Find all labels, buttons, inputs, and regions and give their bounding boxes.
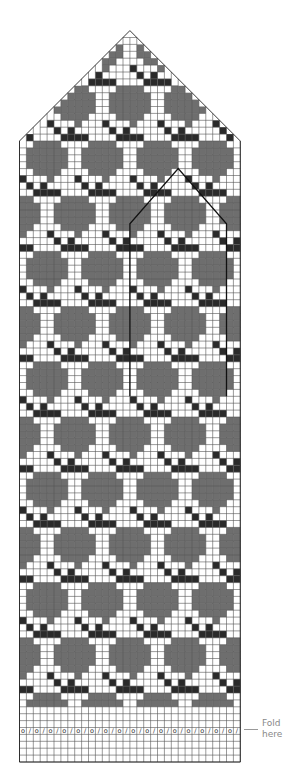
svg-text:/: /	[153, 727, 156, 735]
svg-text:/: /	[56, 727, 59, 735]
svg-text:o: o	[35, 727, 39, 735]
svg-text:/: /	[208, 727, 211, 735]
svg-text:o: o	[200, 727, 204, 735]
svg-text:/: /	[236, 727, 239, 735]
svg-text:/: /	[98, 727, 101, 735]
fold-label-line1: Fold	[262, 718, 282, 729]
svg-text:o: o	[131, 727, 135, 735]
svg-text:/: /	[43, 727, 46, 735]
svg-text:/: /	[181, 727, 184, 735]
svg-text:o: o	[49, 727, 53, 735]
knitting-chart: o/o/o/o/o/o/o/o/o/o/o/o/o/o/o/o/	[0, 0, 288, 781]
fold-pointer-line	[244, 729, 258, 730]
svg-text:o: o	[145, 727, 149, 735]
svg-text:o: o	[118, 727, 122, 735]
svg-text:/: /	[222, 727, 225, 735]
svg-text:/: /	[29, 727, 32, 735]
svg-text:o: o	[21, 727, 25, 735]
svg-text:o: o	[90, 727, 94, 735]
svg-text:o: o	[76, 727, 80, 735]
svg-text:o: o	[228, 727, 232, 735]
svg-text:/: /	[167, 727, 170, 735]
svg-text:o: o	[104, 727, 108, 735]
svg-text:o: o	[214, 727, 218, 735]
svg-text:/: /	[84, 727, 87, 735]
fold-here-label: Fold here	[262, 718, 282, 740]
svg-text:/: /	[139, 727, 142, 735]
svg-text:o: o	[187, 727, 191, 735]
svg-text:/: /	[194, 727, 197, 735]
svg-text:/: /	[112, 727, 115, 735]
fold-label-line2: here	[262, 729, 282, 740]
svg-text:o: o	[62, 727, 66, 735]
svg-text:o: o	[159, 727, 163, 735]
svg-text:/: /	[70, 727, 73, 735]
svg-text:/: /	[125, 727, 128, 735]
svg-text:o: o	[173, 727, 177, 735]
